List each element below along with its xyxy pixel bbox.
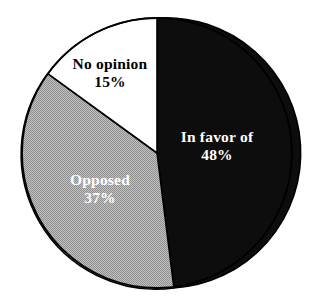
pie-label-in-favor-of-value: 48% bbox=[166, 146, 268, 163]
pie-label-opposed: Opposed 37% bbox=[49, 171, 151, 207]
pie-label-no-opinion: No opinion 15% bbox=[59, 55, 161, 91]
pie-label-in-favor-of-name: In favor of bbox=[166, 128, 268, 145]
pie-label-no-opinion-value: 15% bbox=[59, 73, 161, 90]
pie-label-opposed-value: 37% bbox=[49, 189, 151, 206]
pie-label-no-opinion-name: No opinion bbox=[59, 55, 161, 72]
pie-label-in-favor-of: In favor of 48% bbox=[166, 128, 268, 164]
pie-chart-figure: In favor of 48% Opposed 37% No opinion 1… bbox=[0, 0, 314, 304]
pie-label-opposed-name: Opposed bbox=[49, 171, 151, 188]
